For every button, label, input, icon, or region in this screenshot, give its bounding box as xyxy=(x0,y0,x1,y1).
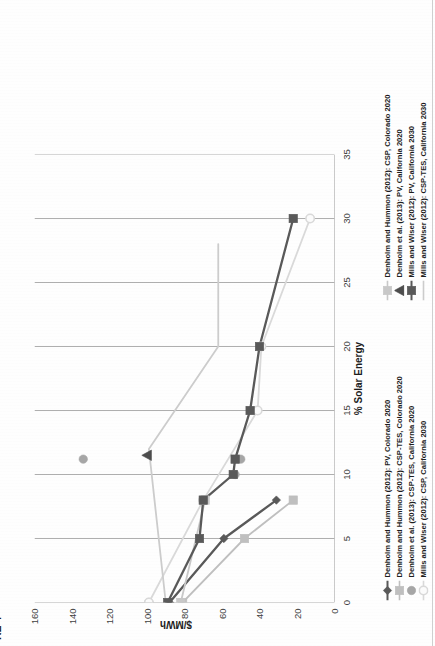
chart-svg xyxy=(34,154,334,602)
legend-column-2: Denholm and Hummon (2012): CSP, Colorado… xyxy=(382,10,428,300)
y-tick-label: 140 xyxy=(66,608,77,628)
data-point xyxy=(305,214,313,222)
chart-legend: Denholm and Hummon (2012): PV, Colorado … xyxy=(382,10,428,600)
legend-item-label: Denholm and Hummon (2012): CSP, Colorado… xyxy=(382,94,392,277)
legend-marker-icon xyxy=(418,280,428,300)
legend-item[interactable]: Denholm et al. (2013): CSP-TES, Californ… xyxy=(406,300,416,600)
legend-item-label: Mills and Wiser (2012): CSP, California … xyxy=(418,420,428,577)
y-tick-label: 40 xyxy=(254,608,265,628)
data-point xyxy=(163,598,171,602)
data-point xyxy=(289,495,297,503)
data-point xyxy=(245,406,253,414)
y-tick-label: 0 xyxy=(329,608,340,628)
x-axis-title: % Solar Energy xyxy=(352,154,363,602)
legend-item[interactable]: Denholm and Hummon (2012): PV, Colorado … xyxy=(382,300,392,600)
series-lines xyxy=(148,218,309,602)
figure-rotated-container: 05101520253035 020406080100120140160 % S… xyxy=(0,0,435,646)
legend-item[interactable]: Mills and Wiser (2012): PV, California 2… xyxy=(406,10,416,300)
data-point xyxy=(141,450,151,460)
legend-marker-icon xyxy=(394,580,404,600)
legend-item[interactable]: Mills and Wiser (2012): CSP-TES, Califor… xyxy=(418,10,428,300)
data-point xyxy=(255,342,263,350)
data-point xyxy=(195,534,203,542)
legend-item-label: Denholm et al. (2013): CSP-TES, Californ… xyxy=(406,405,416,577)
data-point xyxy=(289,214,297,222)
data-point xyxy=(199,495,207,503)
legend-item[interactable]: Mills and Wiser (2012): CSP, California … xyxy=(418,300,428,600)
series-line-7 xyxy=(148,244,217,602)
data-point xyxy=(176,598,184,602)
data-point xyxy=(79,454,87,462)
legend-item-label: Denholm et al. (2013): PV, California 20… xyxy=(394,129,404,277)
data-point xyxy=(240,534,248,542)
y-tick-label: 120 xyxy=(104,608,115,628)
scanned-page: 05101520253035 020406080100120140160 % S… xyxy=(0,0,435,646)
x-tick-label: 5 xyxy=(340,535,351,540)
legend-marker-icon xyxy=(418,580,428,600)
chart-canvas xyxy=(34,154,334,602)
y-tick-label: 160 xyxy=(29,608,40,628)
legend-item-label: Denholm and Hummon (2012): CSP-TES, Colo… xyxy=(394,376,404,577)
x-tick-label: 30 xyxy=(340,213,351,224)
series-line-1 xyxy=(182,500,293,602)
x-tick-label: 20 xyxy=(340,341,351,352)
x-tick-label: 35 xyxy=(340,149,351,160)
legend-marker-icon xyxy=(382,280,392,300)
legend-item[interactable]: Denholm and Hummon (2012): CSP-TES, Colo… xyxy=(394,300,404,600)
x-tick-label: 25 xyxy=(340,277,351,288)
legend-marker-icon xyxy=(406,580,416,600)
y-tick-label: 60 xyxy=(216,608,227,628)
x-tick-label: 10 xyxy=(340,469,351,480)
legend-item-label: Mills and Wiser (2012): CSP-TES, Califor… xyxy=(418,102,428,277)
legend-item[interactable]: Denholm et al. (2013): PV, California 20… xyxy=(394,10,404,300)
figure-caption: RE 4 xyxy=(0,617,3,640)
legend-item[interactable]: Denholm and Hummon (2012): CSP, Colorado… xyxy=(382,10,392,300)
legend-item-label: Denholm and Hummon (2012): PV, Colorado … xyxy=(382,399,392,577)
legend-marker-icon xyxy=(382,580,392,600)
data-point xyxy=(229,470,237,478)
plot-area: 05101520253035 020406080100120140160 xyxy=(34,154,334,602)
legend-item-label: Mills and Wiser (2012): PV, California 2… xyxy=(406,125,416,277)
x-tick-label: 0 xyxy=(340,599,351,604)
y-tick-label: 20 xyxy=(291,608,302,628)
series-line-6 xyxy=(167,218,293,602)
data-point xyxy=(230,454,238,462)
x-tick-label: 15 xyxy=(340,405,351,416)
legend-column-1: Denholm and Hummon (2012): PV, Colorado … xyxy=(382,300,428,600)
series-line-3 xyxy=(148,218,309,602)
legend-marker-icon xyxy=(406,280,416,300)
y-axis-title: $/MWh xyxy=(136,619,216,630)
legend-marker-icon xyxy=(394,280,404,300)
data-point xyxy=(144,598,152,602)
